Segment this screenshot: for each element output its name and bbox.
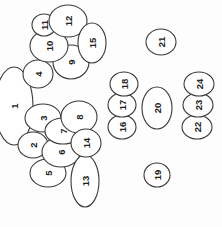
region-label-12: 12 — [63, 16, 74, 27]
region-label-18: 18 — [119, 79, 130, 90]
region-label-14: 14 — [81, 137, 92, 148]
region-18[interactable]: 18 — [110, 72, 138, 96]
region-label-19: 19 — [152, 170, 163, 181]
region-24[interactable]: 24 — [184, 72, 214, 96]
region-label-5: 5 — [43, 170, 54, 176]
region-label-1: 1 — [9, 103, 20, 109]
region-label-8: 8 — [74, 114, 85, 119]
region-20[interactable]: 20 — [142, 87, 172, 129]
region-label-17: 17 — [117, 100, 128, 111]
region-label-20: 20 — [152, 103, 163, 114]
region-8[interactable]: 8 — [61, 101, 97, 133]
region-14[interactable]: 14 — [71, 129, 101, 157]
diagram-svg: 123456789101112131415161718192021222324 — [0, 0, 222, 227]
region-19[interactable]: 19 — [144, 163, 170, 187]
regions-layer: 123456789101112131415161718192021222324 — [0, 5, 214, 207]
region-label-10: 10 — [44, 41, 55, 52]
region-label-2: 2 — [28, 142, 39, 147]
region-label-21: 21 — [156, 36, 167, 47]
region-21[interactable]: 21 — [146, 29, 176, 55]
region-label-16: 16 — [117, 122, 128, 133]
ellipse-cluster-diagram: 123456789101112131415161718192021222324 — [0, 0, 222, 227]
region-label-6: 6 — [56, 149, 67, 154]
region-label-15: 15 — [87, 37, 98, 48]
region-label-9: 9 — [66, 59, 77, 64]
region-13[interactable]: 13 — [71, 155, 99, 207]
region-22[interactable]: 22 — [182, 115, 212, 139]
region-label-23: 23 — [193, 100, 204, 111]
region-label-3: 3 — [38, 115, 49, 120]
region-label-11: 11 — [39, 19, 50, 30]
region-16[interactable]: 16 — [108, 115, 136, 139]
region-label-24: 24 — [194, 78, 205, 89]
region-23[interactable]: 23 — [183, 93, 213, 117]
region-4[interactable]: 4 — [23, 60, 53, 88]
region-label-13: 13 — [80, 176, 91, 187]
region-label-4: 4 — [33, 71, 44, 77]
region-17[interactable]: 17 — [108, 93, 136, 117]
region-15[interactable]: 15 — [78, 23, 106, 63]
region-label-22: 22 — [192, 122, 203, 133]
